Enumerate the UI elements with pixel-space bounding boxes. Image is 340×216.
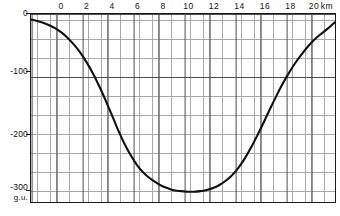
anomaly-curve-svg — [31, 14, 336, 203]
anomaly-curve-path — [31, 20, 336, 192]
gravity-anomaly-figure: 0 2 4 6 8 10 12 14 16 18 20 km 0 -100 -2… — [0, 0, 340, 216]
y-axis-labels: 0 -100 -200 -300 g.u. — [0, 0, 28, 216]
x-tick-label-0: 0 — [58, 1, 63, 11]
x-tick-label-12: 12 — [209, 1, 219, 11]
x-tick-label-2: 2 — [84, 1, 89, 11]
x-tick-label-20: 20 — [309, 1, 319, 11]
x-tick-label-8: 8 — [160, 1, 165, 11]
plot-area — [30, 13, 336, 203]
x-tick-label-4: 4 — [109, 1, 114, 11]
x-tick-label-6: 6 — [135, 1, 140, 11]
x-tick-label-16: 16 — [260, 1, 270, 11]
x-tick-label-10: 10 — [183, 1, 193, 11]
x-tick-label-18: 18 — [285, 1, 295, 11]
y-axis-unit-label: g.u. — [0, 193, 28, 202]
x-axis-unit-label: km — [321, 1, 333, 11]
x-tick-label-14: 14 — [234, 1, 244, 11]
